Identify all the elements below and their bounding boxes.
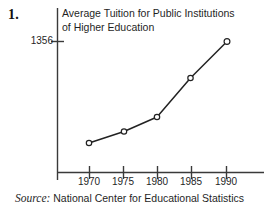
source-text: National Center for Educational Statisti… xyxy=(50,192,244,204)
source-label: Source: xyxy=(15,192,50,204)
x-axis-tick-label-1980: 1980 xyxy=(140,176,174,188)
x-axis-tick-label-1985: 1985 xyxy=(174,176,208,188)
x-axis-tick-label-1975: 1975 xyxy=(106,176,140,188)
figure-container: 1. Average Tuition for Public Institutio… xyxy=(0,0,275,210)
x-axis-tick-label-1990: 1990 xyxy=(209,176,243,188)
data-series-line xyxy=(89,42,227,144)
data-point-1985 xyxy=(188,75,193,80)
chart-axes xyxy=(57,8,264,180)
source-note: Source: National Center for Educational … xyxy=(15,192,244,205)
y-axis-tick-label-1356: 1356 xyxy=(19,35,53,47)
data-point-1970 xyxy=(86,140,91,145)
data-point-markers xyxy=(86,39,230,146)
data-point-1990 xyxy=(224,39,230,45)
data-point-1975 xyxy=(121,129,126,134)
x-axis-tick-label-1970: 1970 xyxy=(72,176,106,188)
data-point-1980 xyxy=(154,114,159,119)
